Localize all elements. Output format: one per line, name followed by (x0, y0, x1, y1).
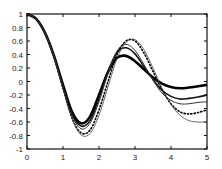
y-tick-label: 1 (19, 10, 24, 19)
series-line-5 (27, 14, 207, 136)
y-tick-label: -0.4 (9, 105, 23, 114)
series-line-2 (27, 14, 207, 126)
y-axis-tick-labels: 10.80.60.40.20-0.2-0.4-0.6-0.8-1 (9, 10, 23, 154)
line-chart: 012345 10.80.60.40.20-0.2-0.4-0.6-0.8-1 (0, 0, 222, 169)
series-line-4 (27, 14, 207, 134)
x-tick-label: 3 (133, 153, 138, 162)
series-line-1 (27, 14, 207, 123)
y-tick-label: -1 (16, 145, 24, 154)
x-axis-tick-labels: 012345 (25, 153, 210, 162)
y-tick-label: 0.2 (12, 64, 24, 73)
x-tick-label: 1 (61, 153, 66, 162)
plot-border (27, 14, 207, 149)
y-tick-label: 0.4 (12, 51, 24, 60)
x-tick-label: 2 (97, 153, 102, 162)
y-tick-label: 0.8 (12, 24, 24, 33)
y-tick-label: 0 (19, 78, 24, 87)
y-tick-label: -0.6 (9, 118, 23, 127)
y-tick-label: 0.6 (12, 37, 24, 46)
x-tick-label: 4 (169, 153, 174, 162)
data-series (27, 14, 207, 136)
series-line-3 (27, 14, 207, 129)
axis-ticks (27, 14, 207, 149)
y-tick-label: -0.2 (9, 91, 23, 100)
x-tick-label: 0 (25, 153, 30, 162)
plot-frame (27, 14, 207, 149)
x-tick-label: 5 (205, 153, 210, 162)
y-tick-label: -0.8 (9, 132, 23, 141)
